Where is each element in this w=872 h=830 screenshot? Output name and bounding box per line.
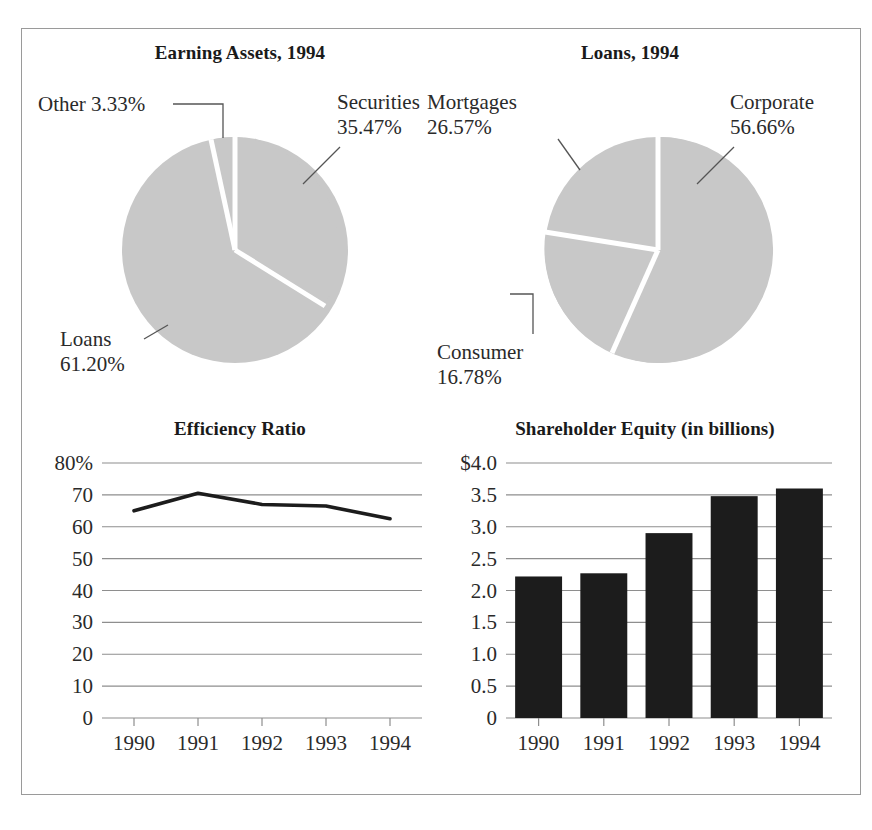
y-tick-label: 20 bbox=[72, 642, 93, 666]
y-tick-label: 0 bbox=[83, 706, 94, 730]
x-tick-label: 1991 bbox=[583, 731, 625, 755]
panel-title-shareholder-equity: Shareholder Equity (in billions) bbox=[460, 418, 830, 440]
x-axis-labels-efficiency: 19901991199219931994 bbox=[113, 731, 412, 755]
x-axis-labels-equity: 19901991199219931994 bbox=[518, 731, 821, 755]
pie-label-consumer-value: 16.78% bbox=[437, 365, 502, 390]
y-tick-label: 40 bbox=[72, 579, 93, 603]
x-tick-label: 1994 bbox=[778, 731, 821, 755]
panel-title-earning-assets: Earning Assets, 1994 bbox=[40, 42, 440, 64]
bar bbox=[580, 573, 627, 718]
y-tick-label: 80% bbox=[55, 451, 94, 475]
gridlines-efficiency bbox=[102, 463, 422, 718]
bar-chart-shareholder-equity: 00.51.01.52.02.53.03.5$4.0 1990199119921… bbox=[440, 418, 850, 758]
pie-label-securities: Securities bbox=[337, 90, 420, 115]
panel-title-loans: Loans, 1994 bbox=[440, 42, 820, 64]
line-chart-efficiency-ratio: 01020304050607080% 19901991199219931994 bbox=[40, 418, 440, 758]
pie-label-other: Other 3.33% bbox=[38, 92, 145, 117]
pie-label-securities-value: 35.47% bbox=[337, 115, 402, 140]
y-tick-label: 2.0 bbox=[471, 579, 497, 603]
y-tick-label: 1.5 bbox=[471, 610, 497, 634]
y-axis-labels-efficiency: 01020304050607080% bbox=[55, 451, 94, 730]
x-tick-label: 1993 bbox=[305, 731, 347, 755]
y-tick-label: 10 bbox=[72, 674, 93, 698]
y-tick-label: 2.5 bbox=[471, 547, 497, 571]
y-axis-labels-equity: 00.51.01.52.02.53.03.5$4.0 bbox=[460, 451, 497, 730]
pie-label-corporate-value: 56.66% bbox=[730, 115, 795, 140]
x-tick-label: 1993 bbox=[713, 731, 755, 755]
y-tick-label: 50 bbox=[72, 547, 93, 571]
pie-label-consumer: Consumer bbox=[437, 340, 523, 365]
x-tick-label: 1990 bbox=[518, 731, 560, 755]
bar bbox=[711, 496, 758, 718]
panel-shareholder-equity: Shareholder Equity (in billions) 00.51.0… bbox=[440, 418, 850, 768]
panel-efficiency-ratio: Efficiency Ratio 01020304050607080% 1990… bbox=[40, 418, 440, 768]
x-tick-label: 1994 bbox=[369, 731, 412, 755]
pie-label-loans-value: 61.20% bbox=[60, 352, 125, 377]
pie-label-corporate: Corporate bbox=[730, 90, 814, 115]
x-axis-ticks-efficiency bbox=[134, 718, 390, 726]
panel-earning-assets: Earning Assets, 1994 Other 3. bbox=[40, 42, 440, 392]
pie-label-mortgages: Mortgages bbox=[427, 90, 517, 115]
x-tick-label: 1990 bbox=[113, 731, 155, 755]
bar-series-equity bbox=[515, 489, 823, 719]
x-axis-ticks-equity bbox=[539, 718, 800, 726]
pie-label-mortgages-value: 26.57% bbox=[427, 115, 492, 140]
y-tick-label: 30 bbox=[72, 610, 93, 634]
x-tick-label: 1991 bbox=[177, 731, 219, 755]
line-series-efficiency bbox=[134, 493, 390, 519]
y-tick-label: 3.0 bbox=[471, 515, 497, 539]
y-tick-label: $4.0 bbox=[460, 451, 497, 475]
figure-page: Earning Assets, 1994 Other 3. bbox=[0, 0, 872, 830]
pie-label-loans: Loans bbox=[60, 327, 111, 352]
bar bbox=[776, 489, 823, 719]
y-tick-label: 70 bbox=[72, 483, 93, 507]
y-tick-label: 0 bbox=[487, 706, 498, 730]
x-tick-label: 1992 bbox=[241, 731, 283, 755]
panel-title-efficiency-ratio: Efficiency Ratio bbox=[70, 418, 410, 440]
panel-loans: Loans, 1994 Mortgages 26.57% Corpor bbox=[440, 42, 850, 392]
bar bbox=[646, 533, 693, 718]
bar bbox=[515, 576, 562, 718]
y-tick-label: 60 bbox=[72, 515, 93, 539]
y-tick-label: 1.0 bbox=[471, 642, 497, 666]
y-tick-label: 0.5 bbox=[471, 674, 497, 698]
x-tick-label: 1992 bbox=[648, 731, 690, 755]
y-tick-label: 3.5 bbox=[471, 483, 497, 507]
